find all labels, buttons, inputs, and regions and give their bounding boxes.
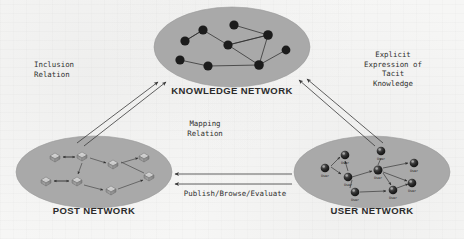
svg-text:User: User	[341, 161, 349, 165]
cluster-post-network[interactable]	[16, 136, 172, 208]
user-node: User	[321, 164, 330, 178]
explicit-expression-relation-label: Explicit Expression of Tacit Knowledge	[338, 50, 448, 88]
svg-text:User: User	[321, 174, 329, 178]
svg-text:User: User	[408, 189, 416, 193]
user-avatar-icon	[377, 147, 386, 156]
user-avatar-icon	[374, 166, 383, 175]
svg-text:User: User	[389, 196, 397, 200]
svg-text:User: User	[351, 198, 359, 202]
diagram-canvas: User User User User	[0, 0, 464, 239]
user-node: User	[374, 166, 383, 180]
user-node: User	[389, 186, 398, 200]
user-avatar-icon	[341, 151, 350, 160]
svg-text:User: User	[410, 169, 418, 173]
publish-browse-evaluate-relation-label: Publish/Browse/Evaluate	[150, 189, 320, 199]
user-network-title: USER NETWORK	[294, 205, 450, 216]
user-node: User	[377, 147, 386, 161]
user-avatar-icon	[344, 173, 353, 182]
user-node: User	[344, 173, 353, 187]
svg-text:User: User	[374, 176, 382, 180]
post-network-title: POST NETWORK	[16, 205, 172, 216]
user-avatar-icon	[321, 164, 330, 173]
svg-text:User: User	[344, 183, 352, 187]
relation-publish-browse-evaluate-arrows[interactable]	[175, 174, 292, 184]
user-node: User	[351, 188, 360, 202]
user-avatar-icon	[408, 179, 417, 188]
cluster-knowledge-network[interactable]	[154, 7, 310, 87]
user-avatar-icon	[351, 188, 360, 197]
svg-text:User: User	[377, 157, 385, 161]
inclusion-relation-label: Inclusion Relation	[34, 60, 124, 79]
user-node: User	[408, 179, 417, 193]
user-node: User	[410, 159, 419, 173]
mapping-relation-label: Mapping Relation	[150, 119, 260, 138]
user-avatar-icon	[389, 186, 398, 195]
user-node: User	[341, 151, 350, 165]
user-avatar-icon	[410, 159, 419, 168]
